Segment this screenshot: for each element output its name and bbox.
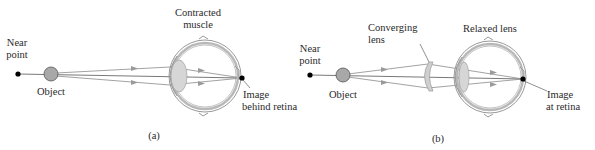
image-label-line1: Image — [547, 89, 574, 100]
object-label: Object — [329, 89, 357, 100]
muscle-label-line2: muscle — [183, 19, 213, 30]
image-point-dot — [239, 75, 244, 80]
panel-b: Near point Object Converging lens Relaxe… — [299, 22, 580, 145]
eye-b — [454, 37, 526, 117]
near-point-label-line2: point — [299, 55, 321, 66]
image-label-line1: Image — [243, 89, 270, 100]
near-point-dot — [307, 72, 312, 77]
near-point-dot — [15, 71, 20, 76]
near-point-label-line2: point — [6, 49, 28, 60]
image-label-line2: at retina — [546, 101, 580, 112]
arrow-icon — [490, 82, 497, 87]
eye-lens-thick — [171, 60, 187, 92]
image-leader-line — [243, 80, 250, 88]
caption-b: (b) — [432, 133, 445, 145]
object-circle — [44, 67, 58, 81]
myopia-hyperopia-diagram: Near point Object Contracted muscle Imag… — [0, 0, 595, 150]
image-leader-line — [524, 81, 547, 91]
arrow-icon — [131, 80, 138, 85]
muscle-label-line1: Contracted — [175, 7, 222, 18]
converging-lens — [425, 62, 434, 91]
eye-lens-relaxed — [459, 62, 469, 92]
ray-upper — [348, 64, 523, 79]
lens-leader-line — [420, 44, 430, 64]
lens-label-line2: lens — [368, 34, 385, 45]
image-label-line2: behind retina — [242, 101, 297, 112]
object-label: Object — [37, 86, 65, 97]
arrow-icon — [381, 80, 388, 85]
image-point-dot — [520, 76, 525, 81]
arrow-icon — [381, 67, 388, 72]
arrow-icon — [131, 66, 138, 71]
panel-a: Near point Object Contracted muscle Imag… — [6, 7, 297, 142]
lens-label-line1: Converging — [368, 22, 418, 33]
object-circle — [336, 68, 350, 82]
caption-a: (a) — [148, 130, 160, 142]
near-point-label-line1: Near — [300, 43, 321, 54]
near-point-label-line1: Near — [7, 37, 28, 48]
relaxed-lens-label: Relaxed lens — [463, 23, 517, 34]
